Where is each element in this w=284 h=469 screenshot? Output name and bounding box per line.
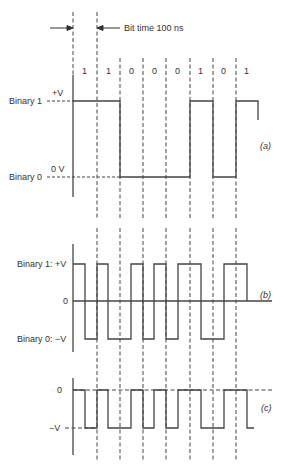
bit-value: 0 xyxy=(175,67,180,76)
encoding-diagram xyxy=(0,0,284,469)
bit-value: 1 xyxy=(106,67,111,76)
panel-c-tag: (c) xyxy=(261,404,272,413)
panel-a-low-level-label: 0 V xyxy=(51,165,65,174)
panel-c-zero-label: 0 xyxy=(57,386,62,395)
panel-c-low-label: −V xyxy=(49,424,60,433)
panel-b-waveform xyxy=(73,244,272,352)
bit-value: 0 xyxy=(152,67,157,76)
bit-value: 0 xyxy=(129,67,134,76)
panel-b-high-label: Binary 1: +V xyxy=(17,260,66,269)
bit-time-label: Bit time 100 ns xyxy=(124,24,184,33)
panel-b-low-label: Binary 0: −V xyxy=(17,335,66,344)
panel-b-tag: (b) xyxy=(260,291,271,300)
bit-value: 1 xyxy=(244,67,249,76)
panel-c-waveform xyxy=(65,378,272,455)
panel-a-tag: (a) xyxy=(260,142,271,151)
panel-a-binary1-label: Binary 1 xyxy=(9,97,42,106)
panel-a-waveform xyxy=(47,75,258,197)
bit-value: 1 xyxy=(198,67,203,76)
bit-value: 1 xyxy=(82,67,87,76)
bit-time-arrows xyxy=(50,26,120,31)
panel-b-zero-label: 0 xyxy=(63,297,68,306)
panel-a-high-level-label: +V xyxy=(52,89,63,98)
bit-value: 0 xyxy=(221,67,226,76)
panel-a-binary0-label: Binary 0 xyxy=(9,173,42,182)
